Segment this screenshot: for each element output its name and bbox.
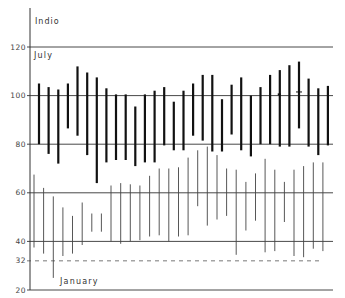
january-bars	[34, 147, 323, 278]
y-tick-labels: 2032406080100120	[10, 43, 26, 295]
y-tick-label: 60	[15, 188, 26, 197]
july-bars	[39, 62, 328, 184]
series-label-july: July	[33, 51, 53, 60]
y-tick-label: 100	[10, 91, 26, 100]
series-label-january: January	[59, 277, 99, 286]
y-tick-label: 120	[10, 43, 26, 52]
y-tick-label: 32	[15, 256, 26, 265]
y-tick-label: 80	[15, 140, 26, 149]
chart-title: Indio	[35, 17, 60, 26]
y-tick-label: 40	[15, 237, 26, 246]
temperature-range-chart: 2032406080100120 Indio July January	[0, 0, 345, 298]
y-tick-label: 20	[15, 286, 26, 295]
annotation-dot	[278, 93, 281, 95]
